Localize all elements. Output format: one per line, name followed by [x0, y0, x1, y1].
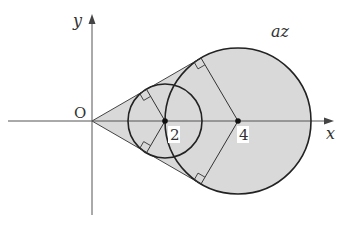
origin-label: O	[74, 104, 86, 122]
point-4-label: 4	[239, 126, 249, 144]
complex-plane-diagram: 2 4 O x y az	[0, 0, 343, 229]
y-axis-arrow-icon	[89, 14, 96, 24]
y-axis-label: y	[72, 11, 83, 30]
point-2-label: 2	[170, 126, 180, 144]
region-label: az	[271, 22, 290, 41]
point-2	[162, 118, 168, 124]
x-axis-label: x	[326, 124, 335, 143]
point-4	[235, 118, 241, 124]
